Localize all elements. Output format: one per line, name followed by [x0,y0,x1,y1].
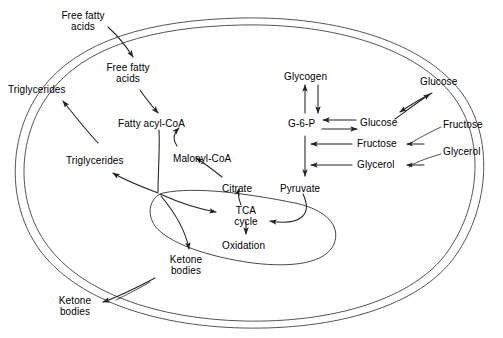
arrow-acylcoa-stem [158,130,159,192]
label-glycerol-out: Glycerol [443,146,499,157]
metabolism-diagram: Free fatty acids Triglycerides Glucose F… [0,0,503,338]
arrow-pyruvate-to-tca [270,194,306,222]
label-triglycerides-in: Triglycerides [66,155,144,166]
arrow-malonylcoa-to-acylcoa [174,128,179,146]
label-g-6-p: G-6-P [288,118,328,129]
label-oxidation: Oxidation [222,240,284,251]
label-glycogen: Glycogen [284,71,346,82]
arrow-triglycerides-export [63,101,98,143]
leader-ketone-out [116,282,150,300]
arrow-acylcoa-to-tca [160,194,216,212]
label-fructose-out: Fructose [443,119,499,130]
label-glycerol-in: Glycerol [357,159,411,170]
leader-fructose-out [408,127,441,145]
cell-membrane [15,18,484,328]
label-citrate: Citrate [222,183,270,194]
label-pyruvate: Pyruvate [280,183,336,194]
label-free-fatty-acids-in: Free fatty acids [93,62,163,84]
arrow-ketones-export [103,278,155,302]
label-fructose-in: Fructose [357,138,411,149]
label-glucose-in: Glucose [360,117,414,128]
label-glucose-out: Glucose [420,76,476,87]
arrow-ffa-to-acylcoa [140,90,158,113]
label-malonyl-coa: Malonyl-CoA [173,153,253,164]
label-fatty-acyl-coa: Fatty acyl-CoA [118,118,210,129]
arrow-acylcoa-to-triglycerides [113,173,158,193]
label-tca-cycle: TCA cycle [222,205,270,227]
diagram-canvas [0,0,503,338]
label-free-fatty-acids-out: Free fatty acids [48,10,118,32]
label-ketone-bodies-out: Ketone bodies [44,295,106,317]
label-triglycerides-out: Triglycerides [8,84,82,95]
arrow-glucose-efflux [395,94,430,119]
label-ketone-bodies-in: Ketone bodies [155,254,217,276]
